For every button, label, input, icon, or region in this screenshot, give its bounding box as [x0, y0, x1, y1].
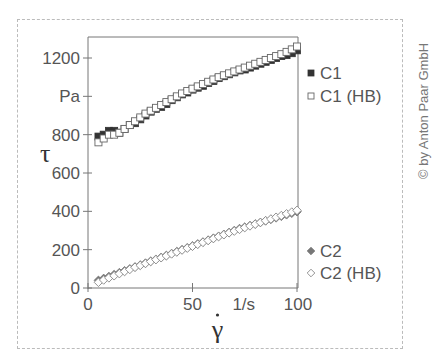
- legend-marker-filled-diamond: [307, 247, 315, 255]
- legend-label: C2 (HB): [320, 264, 381, 283]
- data-points: [94, 43, 301, 287]
- legend-label: C2: [320, 242, 342, 261]
- y-tick-label: 200: [52, 241, 80, 260]
- y-tick-label: 800: [52, 126, 80, 145]
- y-tick-label: 600: [52, 164, 80, 183]
- axes: 0200400600800Pa12000501/s100τγ: [40, 37, 312, 344]
- legend: C1C1 (HB)C2C2 (HB): [307, 64, 381, 283]
- legend-label: C1: [320, 64, 342, 83]
- y-tick-label: 1200: [42, 49, 80, 68]
- legend-marker-open-square: [308, 93, 314, 99]
- x-tick-label: 100: [284, 295, 312, 314]
- y-tick-label: 0: [71, 279, 80, 298]
- copyright-notice: © by Anton Paar GmbH: [412, 4, 432, 179]
- rheology-chart: 0200400600800Pa12000501/s100τγ C1C1 (HB)…: [0, 0, 444, 360]
- x-axis-label: γ: [211, 315, 224, 344]
- x-tick-label: 0: [83, 295, 92, 314]
- y-tick-label: Pa: [59, 87, 80, 106]
- y-tick-label: 400: [52, 202, 80, 221]
- copyright-text: © by Anton Paar GmbH: [416, 43, 431, 179]
- legend-marker-open-diamond: [307, 269, 315, 277]
- legend-label: C1 (HB): [320, 87, 381, 106]
- y-axis-label: τ: [40, 139, 50, 168]
- x-tick-label: 1/s: [232, 295, 255, 314]
- x-tick-label: 50: [183, 295, 202, 314]
- x-axis-label-dot: [216, 313, 219, 316]
- legend-marker-filled-square: [308, 70, 314, 76]
- data-point: [294, 43, 301, 50]
